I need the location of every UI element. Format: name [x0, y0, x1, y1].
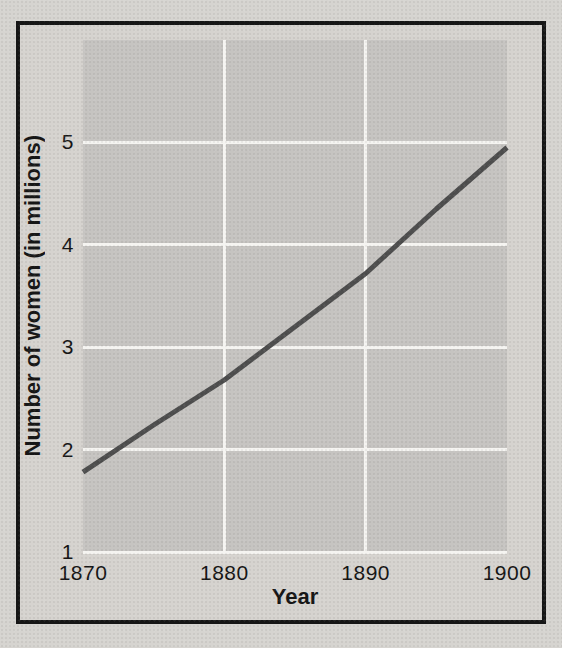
x-tick-label-1900: 1900 [483, 561, 532, 585]
y-axis-title-wrap: Number of women (in millions) [12, 40, 54, 552]
x-tick-label-1870: 1870 [59, 561, 108, 585]
x-tick-label-1880: 1880 [200, 561, 249, 585]
data-line [83, 148, 507, 473]
x-axis-title: Year [272, 584, 319, 609]
chart-figure: 12345 1870188018901900 Number of women (… [0, 0, 562, 648]
data-line-layer [0, 0, 562, 648]
x-axis-title-wrap: Year [83, 584, 507, 610]
x-tick-label-1890: 1890 [341, 561, 390, 585]
y-axis-title: Number of women (in millions) [20, 135, 46, 456]
